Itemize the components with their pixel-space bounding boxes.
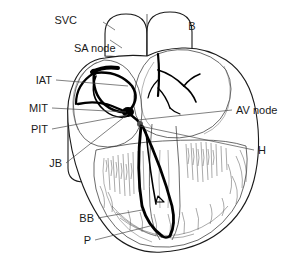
label-p: P bbox=[84, 234, 91, 246]
label-bb: BB bbox=[79, 212, 94, 224]
label-jb: JB bbox=[49, 157, 62, 169]
label-svc: SVC bbox=[54, 14, 77, 26]
label-iat: IAT bbox=[36, 74, 53, 86]
label-h: H bbox=[258, 144, 266, 156]
label-mit: MIT bbox=[29, 102, 48, 114]
label-sa-node: SA node bbox=[74, 42, 116, 54]
heart-conduction-diagram: SVC B SA node IAT MIT PIT JB BB P AV nod… bbox=[0, 0, 288, 259]
label-av-node: AV node bbox=[236, 104, 277, 116]
label-pit: PIT bbox=[31, 123, 48, 135]
label-b: B bbox=[188, 20, 195, 32]
